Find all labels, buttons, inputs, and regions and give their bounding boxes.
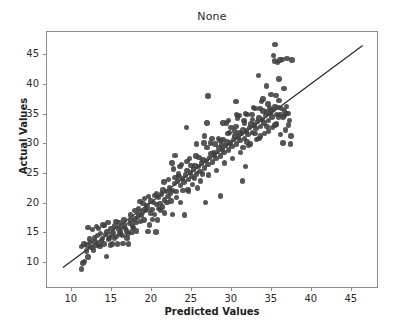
scatter-point [171,166,176,171]
x-tick-mark [71,288,72,291]
scatter-point [147,222,152,227]
scatter-point [240,178,245,183]
scatter-point [91,247,96,252]
scatter-point [192,176,197,181]
scatter-point [99,238,104,243]
scatter-point [156,206,161,211]
scatter-point [173,189,178,194]
y-tick-label: 15 [5,226,39,238]
scatter-point [132,208,137,213]
scatter-point [236,130,241,135]
scatter-point [205,93,210,98]
scatter-point [264,83,269,88]
scatter-point [162,210,167,215]
x-tick-label: 25 [171,293,211,305]
scatter-point [240,145,245,150]
scatter-point [168,190,173,195]
y-tick-label: 10 [5,256,39,268]
scatter-point [107,235,112,240]
scatter-point [214,168,219,173]
scatter-point [182,212,187,217]
scatter-points-layer [47,32,377,287]
scatter-point [92,239,97,244]
scatter-point [200,171,205,176]
scatter-point [288,141,293,146]
scatter-point [104,254,109,259]
scatter-point [277,57,282,62]
scatter-point [238,150,243,155]
scatter-point [186,189,191,194]
y-axis-label: Actual Values [18,56,30,216]
scatter-point [274,121,279,126]
scatter-point [179,162,184,167]
scatter-point [180,188,185,193]
y-tick-mark [43,54,46,55]
scatter-point [141,217,146,222]
scatter-point [206,172,211,177]
scatter-point [184,125,189,130]
x-tick-mark [151,288,152,291]
scatter-point [144,207,149,212]
x-tick-label: 20 [131,293,171,305]
scatter-point [243,111,248,116]
scatter-point [152,212,157,217]
y-tick-mark [43,232,46,233]
scatter-point [108,226,113,231]
y-tick-mark [43,173,46,174]
scatter-point [276,114,281,119]
scatter-point [222,160,227,165]
x-tick-mark [231,288,232,291]
scatter-point [233,99,238,104]
scatter-point [100,222,105,227]
scatter-point [272,42,277,47]
x-tick-label: 30 [211,293,251,305]
scatter-point [79,266,84,271]
x-tick-label: 10 [51,293,91,305]
page-title: None [46,10,378,23]
clipped-bottom-text [0,327,396,335]
scatter-point [115,241,120,246]
scatter-point [284,111,289,116]
scatter-point [218,193,223,198]
scatter-point [252,131,257,136]
scatter-point [164,200,169,205]
scatter-point [212,141,217,146]
scatter-point [84,242,89,247]
scatter-point [128,212,133,217]
scatter-point [153,229,158,234]
scatter-point [85,254,90,259]
scatter-point [154,191,159,196]
scatter-point [126,241,131,246]
y-tick-mark [43,262,46,263]
scatter-plot-figure: None 1015202530354045 1015202530354045 P… [0,0,396,335]
x-tick-mark [271,288,272,291]
scatter-point [166,177,171,182]
scatter-point [242,120,247,125]
scatter-point [280,140,285,145]
scatter-point [260,108,265,113]
y-tick-mark [43,84,46,85]
scatter-point [230,156,235,161]
x-tick-mark [191,288,192,291]
scatter-point [124,235,129,240]
scatter-point [283,127,288,132]
scatter-point [227,130,232,135]
scatter-point [281,86,286,91]
scatter-point [194,141,199,146]
x-tick-label: 40 [291,293,331,305]
scatter-point [84,248,89,253]
scatter-point [204,120,209,125]
scatter-point [244,139,249,144]
scatter-point [140,201,145,206]
scatter-point [198,178,203,183]
y-tick-mark [43,114,46,115]
scatter-point [276,98,281,103]
scatter-point [155,217,160,222]
scatter-point [121,217,126,222]
scatter-point [170,212,175,217]
scatter-point [278,132,283,137]
x-tick-mark [111,288,112,291]
scatter-point [258,133,263,138]
scatter-point [196,155,201,160]
scatter-point [120,241,125,246]
